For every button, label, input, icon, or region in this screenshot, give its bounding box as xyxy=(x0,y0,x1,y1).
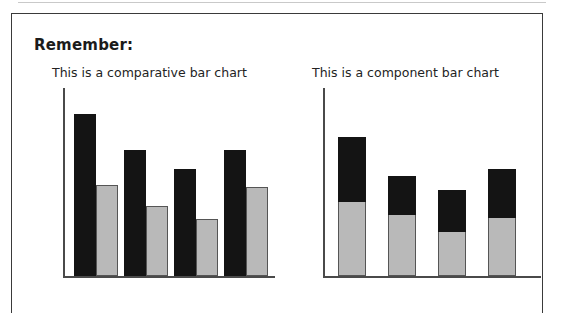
bar-grouped-4-dark xyxy=(224,150,246,276)
bar-grouped-3-dark xyxy=(174,169,196,276)
bar-segment-1-light xyxy=(338,202,366,276)
plot-area-comparative xyxy=(52,88,292,317)
bar-segment-4-light xyxy=(488,218,516,276)
page-title: Remember: xyxy=(34,36,133,54)
bar-grouped-2-dark xyxy=(124,150,146,276)
bar-segment-3-dark xyxy=(438,190,466,232)
bar-segment-2-dark xyxy=(388,176,416,215)
remember-callout-box: Remember: This is a comparative bar char… xyxy=(11,13,543,313)
y-axis-line-component xyxy=(323,88,325,278)
bar-grouped-3-light xyxy=(196,219,218,276)
bar-segment-2-light xyxy=(388,215,416,276)
bar-segment-3-light xyxy=(438,232,466,276)
bar-segment-1-dark xyxy=(338,137,366,202)
plot-area-component xyxy=(312,88,552,317)
x-axis-line-component xyxy=(323,276,541,278)
y-axis-line-comparative xyxy=(63,88,65,278)
chart-caption-component: This is a component bar chart xyxy=(312,66,562,80)
x-axis-line-comparative xyxy=(63,276,275,278)
chart-caption-comparative: This is a comparative bar chart xyxy=(52,66,302,80)
bar-segment-4-dark xyxy=(488,169,516,218)
top-divider-rule xyxy=(18,2,546,3)
bar-grouped-4-light xyxy=(246,187,268,276)
bar-grouped-1-light xyxy=(96,185,118,276)
chart-panel-comparative: This is a comparative bar chart xyxy=(52,66,302,317)
chart-panel-component: This is a component bar chart xyxy=(312,66,562,317)
bar-grouped-1-dark xyxy=(74,114,96,276)
bar-grouped-2-light xyxy=(146,206,168,276)
